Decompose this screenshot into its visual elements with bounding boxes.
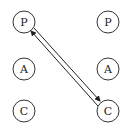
- node-label: P: [104, 16, 112, 29]
- node-label: P: [20, 16, 28, 29]
- edge-leftP-to-rightC: [34, 28, 100, 101]
- diagram-canvas: P A C P A C: [0, 0, 132, 138]
- node-label: C: [104, 105, 112, 118]
- node-left-C: C: [13, 100, 35, 122]
- edges: [31, 28, 100, 106]
- node-label: A: [103, 63, 113, 76]
- node-left-P: P: [13, 11, 35, 33]
- node-right-P: P: [97, 11, 119, 33]
- node-label: A: [19, 63, 29, 76]
- node-left-A: A: [13, 58, 35, 80]
- node-label: C: [20, 105, 28, 118]
- node-right-A: A: [97, 58, 119, 80]
- edge-rightC-to-leftP: [31, 31, 98, 106]
- node-right-C: C: [97, 100, 119, 122]
